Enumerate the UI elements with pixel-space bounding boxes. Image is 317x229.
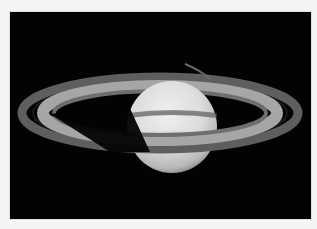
saturn-illustration: [10, 12, 311, 219]
saturn-photo: Saturn and its rings against black space: [10, 12, 311, 219]
saturn-planet: [127, 81, 217, 173]
